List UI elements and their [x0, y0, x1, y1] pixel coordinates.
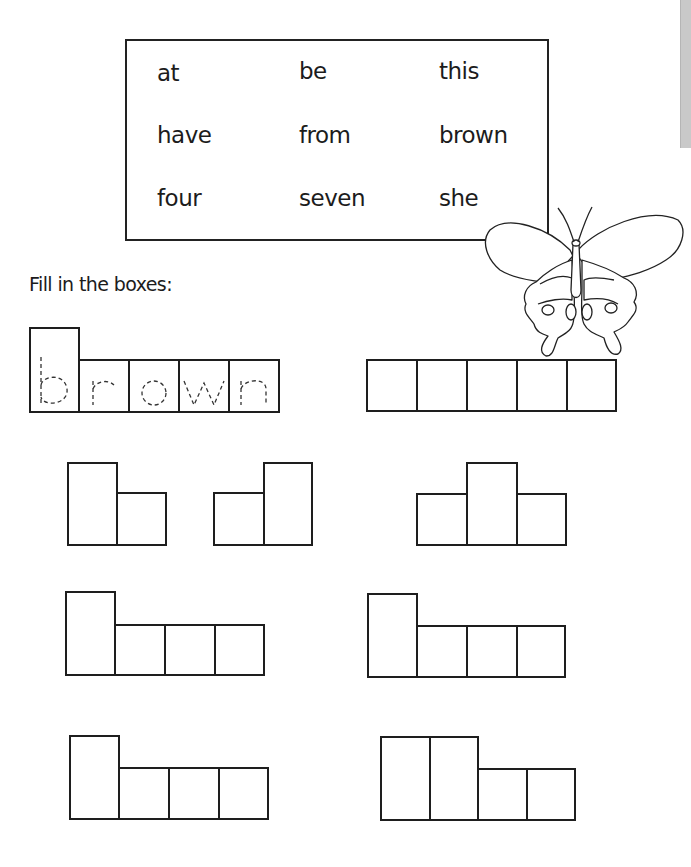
- letter-box-short[interactable]: [128, 359, 180, 413]
- letter-box-short[interactable]: [178, 359, 230, 413]
- letter-box-short[interactable]: [416, 493, 468, 546]
- word-bank-word: she: [439, 187, 478, 210]
- traced-letter-n: [228, 359, 280, 413]
- letter-box-short[interactable]: [416, 625, 468, 678]
- letter-box-short[interactable]: [116, 492, 167, 546]
- letter-box-short[interactable]: [366, 359, 418, 412]
- traced-letter-o: [128, 359, 180, 413]
- letter-box-short[interactable]: [213, 492, 265, 546]
- letter-box-short[interactable]: [466, 359, 518, 412]
- instruction-text: Fill in the boxes:: [29, 273, 172, 295]
- letter-box-short[interactable]: [114, 624, 166, 676]
- letter-box-tall[interactable]: [263, 462, 313, 546]
- letter-box-short[interactable]: [477, 768, 528, 821]
- letter-box-short[interactable]: [566, 359, 617, 412]
- traced-letter-w: [178, 359, 230, 413]
- word-bank-word: have: [157, 124, 211, 147]
- letter-box-short[interactable]: [218, 767, 269, 820]
- letter-box-short[interactable]: [416, 359, 468, 412]
- letter-box-tall[interactable]: [29, 327, 80, 413]
- letter-box-short[interactable]: [516, 359, 568, 412]
- word-bank-word: at: [157, 62, 179, 85]
- letter-box-short[interactable]: [78, 359, 130, 413]
- letter-box-short[interactable]: [516, 493, 567, 546]
- letter-box-tall[interactable]: [466, 462, 518, 546]
- letter-box-short[interactable]: [118, 767, 170, 820]
- letter-box-tall[interactable]: [429, 736, 479, 821]
- letter-box-tall[interactable]: [380, 736, 431, 821]
- traced-letter-b: [29, 327, 80, 413]
- traced-letter-r: [78, 359, 130, 413]
- letter-box-short[interactable]: [228, 359, 280, 413]
- letter-box-short[interactable]: [526, 768, 576, 821]
- page-edge-tab: [680, 0, 691, 148]
- butterfly-icon: [478, 200, 688, 360]
- letter-box-tall[interactable]: [67, 462, 118, 546]
- word-bank-word: seven: [299, 187, 365, 210]
- word-bank-word: from: [299, 124, 351, 147]
- word-bank-word: be: [299, 60, 327, 83]
- letter-box-short[interactable]: [516, 625, 566, 678]
- word-bank-word: this: [439, 60, 479, 83]
- letter-box-tall[interactable]: [65, 591, 116, 676]
- word-bank-word: brown: [439, 124, 508, 147]
- letter-box-short[interactable]: [214, 624, 265, 676]
- letter-box-short[interactable]: [168, 767, 220, 820]
- letter-box-short[interactable]: [164, 624, 216, 676]
- letter-box-tall[interactable]: [367, 593, 418, 678]
- letter-box-short[interactable]: [466, 625, 518, 678]
- word-bank-word: four: [157, 187, 201, 210]
- letter-box-tall[interactable]: [69, 735, 120, 820]
